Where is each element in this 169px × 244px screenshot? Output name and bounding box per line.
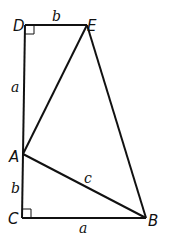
- segment-label-AB: c: [84, 170, 92, 186]
- point-label-E: E: [87, 17, 97, 35]
- segment-label-CB: a: [79, 220, 87, 236]
- segment-EB: [87, 25, 146, 218]
- right-angle-marker-C: [22, 209, 31, 218]
- trapezoid-diagram: D E A C B b a b a c: [0, 0, 169, 244]
- right-angle-marker-D: [25, 25, 34, 34]
- point-label-A: A: [8, 148, 19, 166]
- segment-label-DE: b: [52, 8, 61, 24]
- segment-label-AC: b: [11, 180, 20, 196]
- segment-AE: [23, 25, 87, 154]
- segment-DC: [22, 25, 25, 218]
- segment-label-DA: a: [11, 79, 19, 95]
- segment-AB: [23, 154, 146, 218]
- point-label-D: D: [13, 17, 25, 35]
- point-label-B: B: [148, 212, 158, 230]
- point-label-C: C: [8, 210, 19, 228]
